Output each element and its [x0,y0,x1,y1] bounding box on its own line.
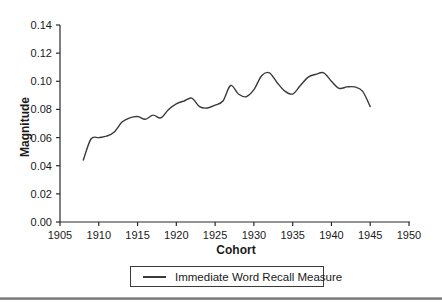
x-tick-label: 1905 [48,229,72,241]
x-tick-label: 1930 [242,229,266,241]
y-tick-label: 0.10 [31,75,52,87]
line-chart-canvas: 0.000.020.040.060.080.100.120.1419051910… [0,0,442,262]
y-tick-label: 0.14 [31,19,52,31]
x-tick-label: 1925 [203,229,227,241]
x-tick-label: 1915 [125,229,149,241]
y-tick-label: 0.12 [31,47,52,59]
x-tick-label: 1940 [319,229,343,241]
x-tick-label: 1950 [397,229,421,241]
legend-line-sample-icon [143,276,166,278]
x-tick-label: 1935 [280,229,304,241]
series-line-immediate-word-recall-measure [83,72,370,160]
x-tick-label: 1910 [87,229,111,241]
y-tick-label: 0.06 [31,132,52,144]
axes-lines [60,25,410,222]
y-tick-label: 0.02 [31,188,52,200]
x-tick-label: 1945 [358,229,382,241]
x-axis-label: Cohort [216,243,255,257]
y-tick-label: 0.00 [31,216,52,228]
page-divider-rule [0,297,442,300]
y-tick-label: 0.08 [31,103,52,115]
legend-label: Immediate Word Recall Measure [175,271,342,283]
x-tick-label: 1920 [164,229,188,241]
y-tick-label: 0.04 [31,160,52,172]
legend-box: Immediate Word Recall Measure [130,266,324,287]
y-axis-label: Magnitude [18,97,32,157]
recall-chart-figure: 0.000.020.040.060.080.100.120.1419051910… [0,0,442,305]
